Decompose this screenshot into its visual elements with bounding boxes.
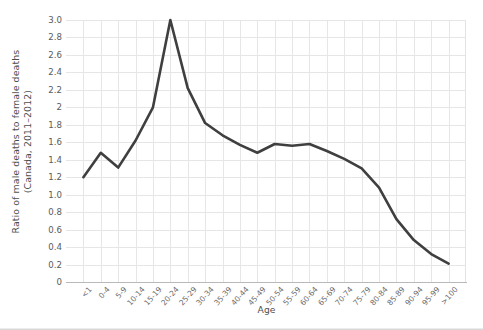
y-tick-label: 2.4 <box>48 67 62 77</box>
y-tick-label: 1.6 <box>48 137 62 147</box>
x-tick-label: 0-4 <box>96 285 111 300</box>
x-axis-title: Age <box>66 304 467 315</box>
chart-figure: Ratio of male deaths to female deaths (C… <box>0 0 483 330</box>
y-tick-label: 2 <box>57 102 62 112</box>
data-series-line <box>66 20 466 282</box>
y-tick-label: 0.8 <box>48 207 62 217</box>
y-tick-label: 0.2 <box>48 260 62 270</box>
y-tick-label: 1.2 <box>48 172 62 182</box>
y-tick-label: 2.6 <box>48 50 62 60</box>
y-tick-label: 1.4 <box>48 155 62 165</box>
y-tick-label: 0 <box>57 277 62 287</box>
x-axis-line <box>66 282 467 283</box>
y-tick-label: 2.8 <box>48 32 62 42</box>
x-tick-label: <1 <box>80 285 94 299</box>
y-axis-title-container: Ratio of male deaths to female deaths (C… <box>0 0 42 300</box>
y-tick-label: 0.6 <box>48 225 62 235</box>
y-tick-label: 1.8 <box>48 120 62 130</box>
plot-area: 00.20.40.60.81.01.21.41.61.822.22.42.62.… <box>66 20 466 282</box>
y-tick-label: 0.4 <box>48 242 62 252</box>
y-tick-label: 3.0 <box>48 15 62 25</box>
y-axis-title: Ratio of male deaths to female deaths (C… <box>10 37 33 247</box>
y-tick-label: 2.2 <box>48 85 62 95</box>
y-tick-label: 1.0 <box>48 190 62 200</box>
